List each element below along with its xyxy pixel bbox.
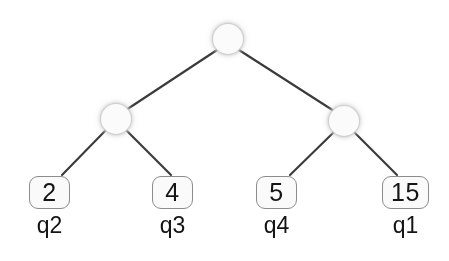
binary-tree-diagram: 2q24q35q415q1: [0, 0, 449, 261]
tree-node-left: [101, 104, 131, 134]
leaf-label-q4: q4: [256, 214, 297, 237]
leaf-value-q3: 4: [165, 180, 179, 205]
leaf-label-q3: q3: [152, 214, 193, 237]
tree-edge-root-to-left: [126, 50, 217, 110]
leaf-box-q2: 2: [29, 176, 70, 209]
leaf-box-q1: 15: [382, 176, 429, 209]
tree-edge-right-to-leaf-q1: [354, 132, 397, 175]
tree-edge-root-to-right: [239, 50, 334, 111]
leaf-value-q2: 2: [42, 180, 56, 205]
tree-node-right: [329, 106, 359, 136]
tree-edge-left-to-leaf-q2: [62, 130, 106, 175]
leaf-box-q4: 5: [256, 176, 297, 209]
leaf-label-q2: q2: [29, 214, 70, 237]
leaf-value-q1: 15: [391, 180, 420, 205]
tree-edge-right-to-leaf-q4: [290, 132, 334, 175]
leaf-label-q1: q1: [382, 214, 429, 237]
leaf-value-q4: 5: [269, 180, 283, 205]
tree-edge-left-to-leaf-q3: [126, 130, 171, 175]
tree-node-root: [213, 24, 243, 54]
leaf-box-q3: 4: [152, 176, 193, 209]
